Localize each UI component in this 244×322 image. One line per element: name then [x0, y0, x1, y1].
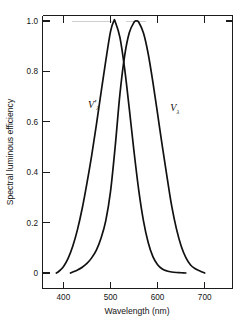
x-axis-tick-labels: 400 500 600 700 [57, 293, 212, 302]
x-axis-title: Wavelength (nm) [104, 306, 169, 316]
y-axis-tick-labels: 1.0 0.8 0.6 0.4 0.2 0 [27, 17, 39, 278]
x-tick-label-2: 600 [151, 293, 165, 302]
x-tick-label-3: 700 [198, 293, 212, 302]
y-tick-label-5: 1.0 [27, 17, 39, 26]
y-tick-label-4: 0.8 [27, 67, 39, 76]
curve-v-lambda [70, 21, 204, 273]
y-axis-ticks [43, 21, 233, 273]
y-tick-label-2: 0.4 [27, 168, 39, 177]
y-tick-label-3: 0.6 [27, 118, 39, 127]
plot-frame [43, 16, 233, 289]
y-axis-title: Spectral luminous efficiency [5, 98, 15, 205]
x-tick-label-0: 400 [57, 293, 71, 302]
series-label-v-prime-lambda: V′λ [88, 98, 99, 111]
y-tick-label-1: 0.2 [27, 219, 39, 228]
series-label-v-lambda: Vλ [170, 102, 179, 115]
x-tick-label-1: 500 [104, 293, 118, 302]
y-tick-label-0: 0 [33, 269, 38, 278]
chart-canvas: 1.0 0.8 0.6 0.4 0.2 0 400 500 600 700 Wa… [0, 0, 244, 322]
figure-spectral-luminous-efficiency: 1.0 0.8 0.6 0.4 0.2 0 400 500 600 700 Wa… [0, 0, 244, 322]
curve-v-prime-lambda [56, 20, 186, 273]
